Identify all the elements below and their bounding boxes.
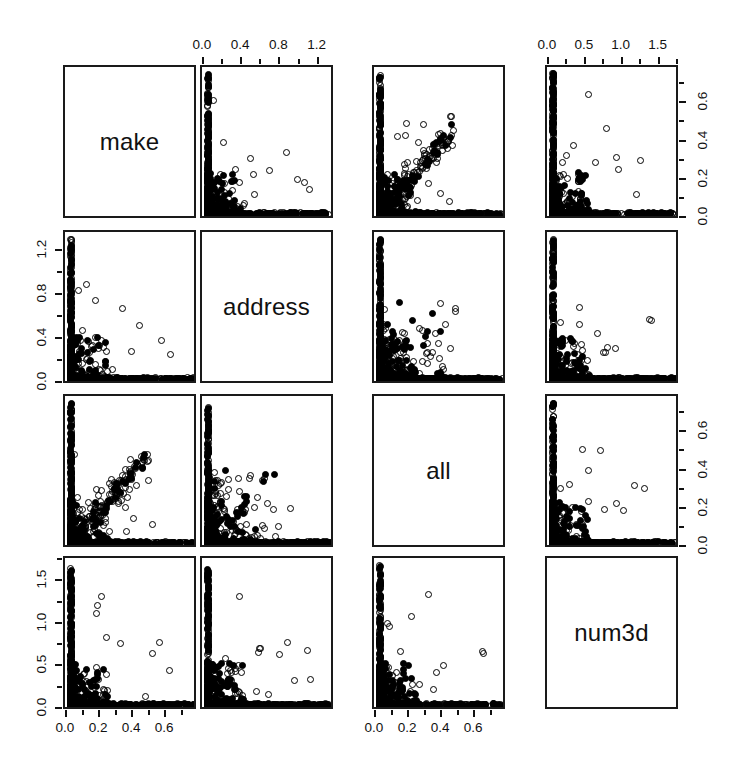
axis-tick-label: 0.6 <box>695 421 710 440</box>
data-point <box>243 532 250 539</box>
data-point <box>185 701 192 708</box>
data-point <box>271 471 278 478</box>
axis-tick-label: 0.0 <box>34 372 49 391</box>
data-point <box>435 340 442 347</box>
data-point <box>487 210 494 217</box>
data-point <box>559 159 566 166</box>
data-point <box>613 154 620 161</box>
data-point <box>243 498 250 505</box>
axis-tick-label: 0.0 <box>695 536 710 555</box>
data-point <box>73 535 80 542</box>
data-point <box>92 297 99 304</box>
data-point <box>384 702 391 709</box>
axis-tick-label: 0.5 <box>574 37 593 52</box>
data-point <box>241 200 248 207</box>
data-point <box>416 681 423 688</box>
data-point <box>261 475 268 482</box>
axis-tick <box>621 57 623 64</box>
data-point <box>561 211 568 218</box>
panel-diagonal-num3d: num3d <box>545 556 678 709</box>
data-point <box>377 137 384 144</box>
data-point <box>389 328 396 335</box>
data-point <box>550 79 557 86</box>
data-point <box>250 702 257 709</box>
data-point <box>71 376 78 383</box>
data-point <box>251 191 258 198</box>
data-point <box>235 475 242 482</box>
data-point <box>94 602 101 609</box>
data-point <box>377 100 384 107</box>
axis-tick <box>679 469 686 471</box>
data-point <box>642 375 649 382</box>
data-point <box>119 305 126 312</box>
data-point <box>436 210 443 217</box>
data-point <box>68 422 75 429</box>
data-point <box>81 670 88 677</box>
data-point <box>79 506 86 513</box>
axis-tick-label: 0.4 <box>695 459 710 478</box>
axis-tick <box>679 507 686 509</box>
axis-tick <box>679 526 684 528</box>
axis-tick-label: 0.0 <box>538 37 557 52</box>
panel-address-vs-all <box>372 230 505 383</box>
data-point <box>597 447 604 454</box>
data-point <box>477 702 484 709</box>
data-point <box>615 166 622 173</box>
data-point <box>205 73 212 80</box>
data-point <box>109 366 116 373</box>
data-point <box>327 540 333 547</box>
data-point <box>577 362 584 369</box>
data-point <box>76 350 83 357</box>
data-point <box>579 353 586 360</box>
axis-tick <box>679 411 684 413</box>
data-point <box>391 365 398 372</box>
data-point <box>74 494 81 501</box>
data-point <box>575 201 582 208</box>
axis-tick <box>57 686 62 688</box>
data-point <box>139 702 146 709</box>
data-point <box>579 446 586 453</box>
data-point <box>291 677 298 684</box>
data-point <box>68 688 75 695</box>
data-point <box>421 152 428 159</box>
data-point <box>68 465 75 472</box>
data-point <box>149 521 156 528</box>
data-point <box>549 170 556 177</box>
data-point <box>209 528 216 535</box>
data-point <box>205 637 212 644</box>
data-point <box>603 125 610 132</box>
axis-tick <box>679 101 686 103</box>
axis-tick <box>679 545 686 547</box>
data-point <box>637 157 644 164</box>
axis-tick-label: 0.0 <box>365 720 384 735</box>
data-point <box>205 539 212 546</box>
data-point <box>550 151 557 158</box>
data-point <box>225 486 232 493</box>
data-point <box>382 347 389 354</box>
data-point <box>432 330 439 337</box>
data-point <box>433 669 440 676</box>
data-point <box>301 179 308 186</box>
axis-top-num3d: 0.00.51.01.5 <box>545 65 678 66</box>
axis-tick <box>407 710 409 717</box>
axis-tick-label: 0.6 <box>464 720 483 735</box>
data-point <box>429 310 436 317</box>
axis-right-all: 0.00.20.40.6 <box>678 394 679 547</box>
data-point <box>620 507 627 514</box>
axis-tick <box>115 710 117 715</box>
data-point <box>408 613 415 620</box>
data-point <box>95 345 102 352</box>
data-point <box>440 662 447 669</box>
data-point <box>68 507 75 514</box>
data-point <box>564 175 571 182</box>
data-point <box>641 485 648 492</box>
data-point <box>128 348 135 355</box>
data-point <box>296 539 303 546</box>
data-point <box>218 539 225 546</box>
data-point <box>621 539 628 546</box>
data-point <box>550 159 557 166</box>
data-point <box>223 493 230 500</box>
axis-tick <box>82 710 84 715</box>
data-point <box>379 694 386 701</box>
data-point <box>638 210 645 217</box>
